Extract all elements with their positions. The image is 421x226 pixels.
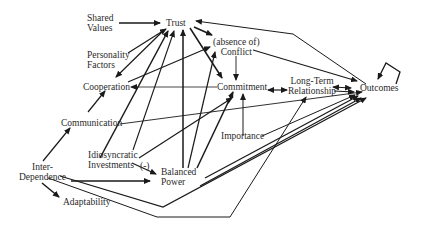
edge-outcomes-self-loop <box>378 63 400 84</box>
node-cooperation: Cooperation <box>83 82 130 92</box>
negative-sign-label: (-) <box>140 161 150 171</box>
edge-balanced-conflict <box>188 52 215 168</box>
diagram-canvas: Shared Values Trust Personality Factors … <box>0 0 421 226</box>
edge-cooperation-conflict <box>128 47 210 82</box>
edge-trust-conflict <box>194 27 212 35</box>
node-shared-values: Shared Values <box>87 13 113 33</box>
edge-personality-trust <box>128 29 166 53</box>
node-adaptability: Adaptability <box>63 197 111 207</box>
node-personality-factors: Personality Factors <box>87 50 130 70</box>
edge-balanced-commitment <box>197 92 233 168</box>
edge-interdependence-adaptability <box>42 183 59 197</box>
node-balanced-power: Balanced Power <box>161 167 196 187</box>
edge-idiosyncratic-commitment <box>139 98 232 158</box>
node-communication: Communication <box>61 118 122 128</box>
node-importance: Importance <box>221 131 264 141</box>
edge-idiosyncratic-trust <box>133 31 174 150</box>
node-inter-dependence: Inter- Dependence <box>19 162 66 182</box>
node-conflict: (absence of) Conflict <box>213 37 260 57</box>
diagram-edges <box>0 0 421 226</box>
node-idiosyncratic-investments: Idiosyncratic Investments <box>88 150 138 170</box>
edge-importance-outcomes <box>262 95 355 136</box>
edge-communication-cooperation <box>88 91 105 112</box>
node-commitment: Commitment <box>217 82 267 92</box>
node-trust: Trust <box>166 18 186 28</box>
node-outcomes: Outcomes <box>360 83 399 93</box>
node-long-term-relationship: Long-Term Relationship <box>288 76 336 96</box>
edge-interdependence-communication <box>43 128 70 161</box>
